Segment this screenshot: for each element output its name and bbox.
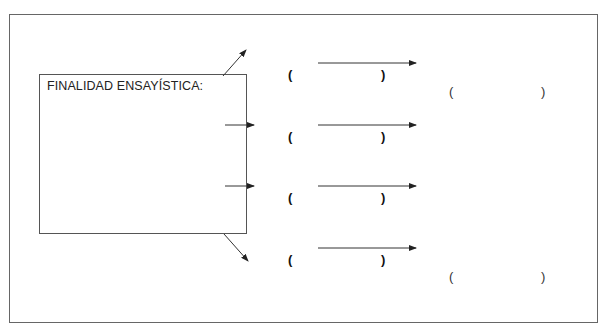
row-4-open-paren: (: [288, 252, 292, 267]
row-1-open-paren: (: [288, 67, 292, 82]
row-3-close-paren: ): [381, 190, 385, 205]
row-4-close-paren: ): [381, 252, 385, 267]
result-2-open-paren: (: [449, 269, 453, 284]
row-1-close-paren: ): [381, 67, 385, 82]
branch-arrow-4: [224, 234, 248, 261]
row-2-close-paren: ): [381, 129, 385, 144]
row-2-open-paren: (: [288, 129, 292, 144]
row-3-open-paren: (: [288, 190, 292, 205]
arrows-layer: [0, 0, 610, 333]
result-1-close-paren: ): [541, 84, 545, 99]
result-1-open-paren: (: [449, 84, 453, 99]
branch-arrow-1: [223, 50, 246, 76]
result-2-close-paren: ): [541, 269, 545, 284]
